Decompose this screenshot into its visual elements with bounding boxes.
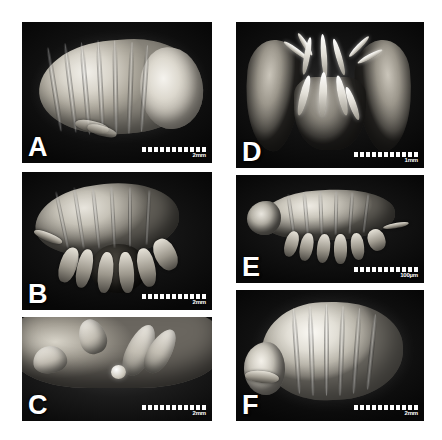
panel-f: F 2mm bbox=[236, 290, 424, 421]
body-segment bbox=[324, 304, 329, 396]
panel-c-image: C 2mm bbox=[22, 317, 212, 421]
panel-letter: F bbox=[242, 392, 259, 419]
panel-c: C 2mm bbox=[22, 317, 212, 421]
panel-d: D 1mm bbox=[236, 22, 424, 168]
panel-letter: A bbox=[28, 134, 48, 161]
panel-letter: B bbox=[28, 281, 48, 308]
panel-e: E 100µm bbox=[236, 175, 424, 283]
scale-bar: 2mm bbox=[142, 405, 206, 417]
panel-e-image: E 100µm bbox=[236, 175, 424, 283]
scale-bar: 2mm bbox=[142, 294, 206, 306]
body-segment bbox=[128, 187, 132, 246]
scale-bar-label: 2mm bbox=[142, 152, 206, 159]
panel-f-image: F 2mm bbox=[236, 290, 424, 421]
scale-bar-label: 2mm bbox=[354, 410, 418, 417]
panel-letter: D bbox=[242, 139, 262, 166]
panel-b-image: B 2mm bbox=[22, 172, 212, 310]
scale-bar: 1mm bbox=[354, 152, 418, 164]
specimen-head bbox=[244, 342, 285, 394]
scale-bar-label: 2mm bbox=[142, 299, 206, 306]
scale-bar: 2mm bbox=[142, 147, 206, 159]
pereopod bbox=[334, 234, 347, 263]
figure-plate: A 2mm B bbox=[0, 0, 442, 440]
scale-bar-label: 100µm bbox=[354, 272, 418, 279]
scale-bar: 100µm bbox=[354, 267, 418, 279]
scale-bar: 2mm bbox=[354, 405, 418, 417]
panel-d-image: D 1mm bbox=[236, 22, 424, 168]
panel-a: A 2mm bbox=[22, 22, 212, 163]
panel-letter: C bbox=[28, 392, 48, 419]
panel-a-image: A 2mm bbox=[22, 22, 212, 163]
scale-bar-label: 2mm bbox=[142, 410, 206, 417]
panel-b: B 2mm bbox=[22, 172, 212, 310]
scale-bar-label: 1mm bbox=[354, 157, 418, 164]
specimen-head bbox=[247, 201, 281, 236]
panel-letter: E bbox=[242, 254, 260, 281]
